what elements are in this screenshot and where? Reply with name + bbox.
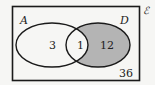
region-d-only-value: 12: [100, 39, 114, 52]
venn-diagram: A D ℰ 3 1 12 36: [0, 0, 155, 85]
region-a-only-value: 3: [49, 39, 56, 52]
set-d-label: D: [119, 14, 129, 27]
universal-set-label: ℰ: [143, 5, 150, 16]
set-a-label: A: [19, 14, 28, 27]
region-neither-value: 36: [119, 67, 133, 80]
region-a-and-d-value: 1: [77, 39, 84, 52]
